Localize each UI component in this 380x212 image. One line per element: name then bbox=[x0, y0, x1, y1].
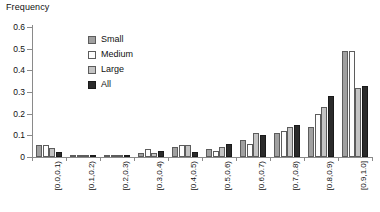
bar bbox=[77, 155, 83, 157]
bar bbox=[355, 88, 361, 157]
frequency-bar-chart: Frequency 00.10.20.30.40.50.6 [0.0,0.1)[… bbox=[0, 0, 380, 212]
legend-label: Small bbox=[101, 35, 124, 44]
bar bbox=[342, 51, 348, 157]
bar bbox=[287, 127, 293, 157]
bar bbox=[260, 135, 266, 157]
y-tick-label: 0.4 bbox=[13, 65, 25, 75]
bar bbox=[240, 140, 246, 157]
bar bbox=[90, 155, 96, 157]
bar bbox=[349, 51, 355, 157]
bar-group bbox=[236, 27, 270, 157]
legend-label: All bbox=[101, 80, 111, 89]
x-tick bbox=[270, 157, 271, 161]
legend-swatch-icon bbox=[88, 36, 96, 44]
bar bbox=[192, 152, 198, 157]
chart-legend: SmallMediumLargeAll bbox=[88, 33, 133, 93]
bar bbox=[49, 148, 55, 157]
bar bbox=[321, 107, 327, 157]
bar-group bbox=[304, 27, 338, 157]
bar bbox=[151, 153, 157, 157]
legend-item: Medium bbox=[88, 48, 133, 61]
legend-swatch-icon bbox=[88, 81, 96, 89]
x-tick bbox=[168, 157, 169, 161]
x-tick-label: [0.6,0.7) bbox=[257, 161, 266, 190]
bar bbox=[36, 145, 42, 157]
legend-item: Small bbox=[88, 33, 133, 46]
bar bbox=[56, 152, 62, 157]
bar-group bbox=[202, 27, 236, 157]
legend-swatch-icon bbox=[88, 66, 96, 74]
bar bbox=[83, 155, 89, 157]
bar bbox=[124, 155, 130, 157]
bar bbox=[226, 144, 232, 157]
bar bbox=[274, 133, 280, 157]
bar-group bbox=[168, 27, 202, 157]
bar bbox=[43, 145, 49, 157]
bar bbox=[138, 153, 144, 157]
bar bbox=[70, 155, 76, 157]
bar-group bbox=[134, 27, 168, 157]
x-tick-label: [0.7,0.8) bbox=[291, 161, 300, 190]
x-tick bbox=[236, 157, 237, 161]
bar bbox=[219, 147, 225, 157]
x-tick-label: [0.2,0.3) bbox=[121, 161, 130, 190]
bar-group bbox=[270, 27, 304, 157]
bars-layer bbox=[32, 27, 372, 157]
bar bbox=[253, 133, 259, 157]
bar bbox=[172, 147, 178, 157]
bar bbox=[213, 151, 219, 158]
y-tick-label: 0.1 bbox=[13, 130, 25, 140]
x-tick-label: [0.0,0.1) bbox=[53, 161, 62, 190]
legend-item: All bbox=[88, 78, 133, 91]
y-tick-label: 0.3 bbox=[13, 87, 25, 97]
bar bbox=[308, 127, 314, 157]
bar bbox=[281, 131, 287, 157]
x-tick bbox=[32, 157, 33, 161]
legend-label: Large bbox=[101, 65, 124, 74]
bar bbox=[362, 86, 368, 158]
y-tick-label: 0.2 bbox=[13, 109, 25, 119]
bar bbox=[185, 145, 191, 157]
legend-swatch-icon bbox=[88, 51, 96, 59]
bar bbox=[247, 144, 253, 157]
bar bbox=[294, 125, 300, 158]
y-tick-label: 0.5 bbox=[13, 44, 25, 54]
x-tick-label: [0.4,0.5) bbox=[189, 161, 198, 190]
x-tick-label: [0.8,0.9) bbox=[325, 161, 334, 190]
x-tick bbox=[66, 157, 67, 161]
x-tick bbox=[100, 157, 101, 161]
x-tick bbox=[338, 157, 339, 161]
bar bbox=[104, 155, 110, 157]
legend-label: Medium bbox=[101, 50, 133, 59]
x-tick-label: [0.5,0.6) bbox=[223, 161, 232, 190]
x-tick bbox=[134, 157, 135, 161]
x-tick-label: [0.3,0.4) bbox=[155, 161, 164, 190]
x-tick-label: [0.1,0.2) bbox=[87, 161, 96, 190]
bar bbox=[145, 149, 151, 157]
bar bbox=[111, 155, 117, 157]
x-tick bbox=[304, 157, 305, 161]
x-tick-label: [0.9,1.0] bbox=[359, 161, 368, 190]
bar-group bbox=[32, 27, 66, 157]
y-tick-label: 0.6 bbox=[13, 22, 25, 32]
y-axis-title: Frequency bbox=[6, 2, 49, 12]
bar bbox=[117, 155, 123, 157]
bar bbox=[315, 114, 321, 157]
bar bbox=[328, 96, 334, 157]
legend-item: Large bbox=[88, 63, 133, 76]
bar bbox=[206, 149, 212, 157]
bar-group bbox=[338, 27, 372, 157]
bar bbox=[158, 151, 164, 158]
bar bbox=[179, 145, 185, 157]
x-tick bbox=[372, 157, 373, 161]
x-tick bbox=[202, 157, 203, 161]
y-tick-label: 0 bbox=[20, 152, 25, 162]
